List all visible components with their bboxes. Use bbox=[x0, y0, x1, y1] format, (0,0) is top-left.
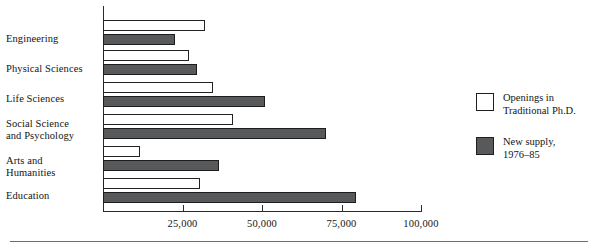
x-axis-tick-label: 75,000 bbox=[326, 218, 356, 229]
bottom-rule bbox=[10, 241, 588, 242]
category-label-line: Life Sciences bbox=[6, 93, 64, 104]
legend-item-openings: Openings in Traditional Ph.D. bbox=[476, 92, 576, 117]
bar-openings-engineering bbox=[103, 20, 205, 31]
x-axis-tick bbox=[183, 205, 184, 212]
plot-area: 25,00050,00075,000100,000 bbox=[103, 6, 421, 212]
x-axis-tick-label: 50,000 bbox=[247, 218, 277, 229]
legend-label-openings: Openings in Traditional Ph.D. bbox=[503, 92, 576, 117]
bar-newsupply-physical-sciences bbox=[103, 64, 197, 75]
x-axis-tick bbox=[421, 205, 422, 212]
legend-label-line2: 1976–85 bbox=[503, 149, 555, 162]
bar-newsupply-social-science-and-psychology bbox=[103, 128, 326, 139]
category-label-physical-sciences: Physical Sciences bbox=[6, 63, 100, 75]
bar-openings-arts-and-humanities bbox=[103, 146, 140, 157]
legend-label-line1: Openings in bbox=[503, 92, 554, 103]
x-axis-tick bbox=[342, 205, 343, 212]
category-label-line: Social Science bbox=[6, 118, 69, 129]
category-label-social-science-and-psychology: Social Science and Psychology bbox=[6, 118, 100, 141]
category-label-line: and Psychology bbox=[6, 130, 74, 141]
bar-openings-education bbox=[103, 178, 200, 189]
x-axis-tick bbox=[262, 205, 263, 212]
category-label-engineering: Engineering bbox=[6, 33, 100, 45]
x-axis-tick-label: 100,000 bbox=[403, 218, 439, 229]
legend-swatch-filled bbox=[476, 137, 494, 155]
bar-newsupply-education bbox=[103, 192, 356, 203]
category-label-arts-and-humanities: Arts and Humanities bbox=[6, 155, 100, 178]
category-label-line: Arts and bbox=[6, 155, 43, 166]
bar-openings-life-sciences bbox=[103, 82, 213, 93]
legend-label-line2: Traditional Ph.D. bbox=[503, 105, 576, 118]
legend-label-new-supply: New supply, 1976–85 bbox=[503, 136, 555, 161]
category-label-line: Humanities bbox=[6, 167, 55, 178]
category-label-line: Engineering bbox=[6, 33, 58, 44]
bar-chart-figure: Engineering Physical Sciences Life Scien… bbox=[0, 0, 597, 248]
x-axis-tick-label: 25,000 bbox=[167, 218, 197, 229]
category-label-line: Physical Sciences bbox=[6, 63, 83, 74]
bar-newsupply-life-sciences bbox=[103, 96, 265, 107]
bar-newsupply-arts-and-humanities bbox=[103, 160, 219, 171]
bar-openings-physical-sciences bbox=[103, 50, 189, 61]
bar-openings-social-science-and-psychology bbox=[103, 114, 233, 125]
legend-item-new-supply: New supply, 1976–85 bbox=[476, 136, 555, 161]
category-label-life-sciences: Life Sciences bbox=[6, 93, 100, 105]
bar-newsupply-engineering bbox=[103, 34, 175, 45]
category-label-education: Education bbox=[6, 190, 100, 202]
category-label-line: Education bbox=[6, 190, 49, 201]
legend-label-line1: New supply, bbox=[503, 136, 555, 147]
legend-swatch-open bbox=[476, 93, 494, 111]
